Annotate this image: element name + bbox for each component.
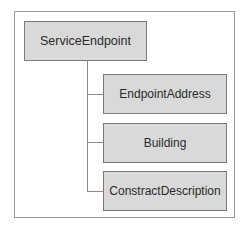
node-label: EndpointAddress — [119, 87, 210, 101]
connector-contract-description — [87, 191, 103, 192]
root-node-service-endpoint: ServiceEndpoint — [24, 21, 147, 61]
connector-building — [87, 142, 103, 143]
child-node-contract-description: ConstractDescription — [103, 171, 227, 211]
child-node-building: Building — [103, 123, 227, 163]
node-label: ServiceEndpoint — [40, 34, 131, 48]
node-label: ConstractDescription — [109, 184, 220, 198]
child-node-endpoint-address: EndpointAddress — [103, 74, 227, 114]
connector-endpoint-address — [87, 94, 103, 95]
tree-trunk-connector — [87, 61, 88, 192]
node-label: Building — [144, 136, 187, 150]
